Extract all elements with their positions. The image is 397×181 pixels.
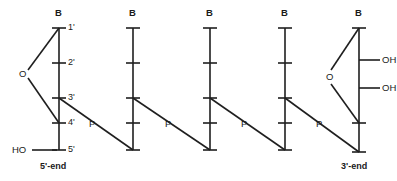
five-prime-end-label: 5'-end <box>40 162 66 171</box>
position-label-5prime: 5' <box>68 145 75 154</box>
terminal-hydroxyl-5prime-label: HO <box>12 145 26 155</box>
position-label-1prime: 1' <box>68 23 75 32</box>
position-label-4prime: 4' <box>68 118 75 127</box>
phosphodiester-link-2 <box>133 98 210 150</box>
nucleic-acid-backbone-diagram: B B B B B 1' 2' 3' 4' 5' O O HO OH OH P … <box>0 0 397 181</box>
phosphate-label-4: P <box>316 119 322 129</box>
unit-5-ring-bond-c1-o <box>331 28 359 70</box>
nucleotide-unit-5 <box>331 28 380 152</box>
nucleotide-unit-1 <box>28 28 66 150</box>
terminal-hydroxyl-upper-label: OH <box>382 55 396 65</box>
nucleotide-unit-4 <box>278 28 292 150</box>
terminal-hydroxyl-lower-label: OH <box>382 83 396 93</box>
phosphodiester-link-3 <box>210 98 285 150</box>
unit-5-ring-bond-o-c4 <box>331 84 359 123</box>
nucleotide-unit-3 <box>203 28 217 150</box>
backbone-structure-svg <box>0 0 397 181</box>
base-label-unit-1: B <box>55 8 62 18</box>
phosphate-label-2: P <box>165 119 171 129</box>
three-prime-end-label: 3'-end <box>341 162 367 171</box>
phosphodiester-linkages <box>59 98 359 152</box>
ring-oxygen-label-unit-1: O <box>19 69 26 79</box>
phosphate-label-3: P <box>241 119 247 129</box>
nucleotide-unit-2 <box>126 28 140 150</box>
position-label-2prime: 2' <box>68 58 75 67</box>
position-label-3prime: 3' <box>68 93 75 102</box>
base-label-unit-3: B <box>206 8 213 18</box>
base-label-unit-2: B <box>129 8 136 18</box>
phosphate-label-1: P <box>89 119 95 129</box>
unit-1-ring-bond-o-c4 <box>28 78 59 123</box>
base-label-unit-5: B <box>355 8 362 18</box>
base-label-unit-4: B <box>281 8 288 18</box>
ring-oxygen-label-unit-5: O <box>326 72 333 82</box>
